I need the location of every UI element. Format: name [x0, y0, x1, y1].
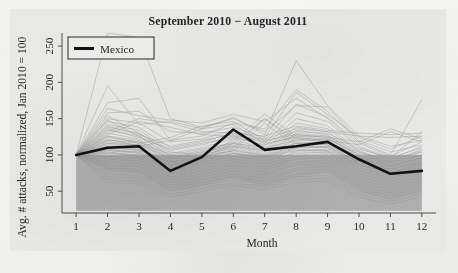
- y-axis-title: Avg. # attacks, normalized, Jan 2010 = 1…: [16, 36, 29, 237]
- chart-title: September 2010 − August 2011: [149, 14, 308, 28]
- chart-canvas: September 2010 − August 2011 Avg. # atta…: [10, 9, 446, 251]
- x-tick-label: 4: [168, 220, 174, 232]
- y-tick-label: 250: [43, 37, 55, 54]
- y-tick-label: 200: [43, 74, 55, 91]
- legend-label-mexico: Mexico: [100, 43, 135, 55]
- y-tick-label: 50: [43, 185, 55, 197]
- x-tick-label: 6: [230, 220, 236, 232]
- y-tick-label: 100: [43, 146, 55, 163]
- chart-figure: September 2010 − August 2011 Avg. # atta…: [10, 9, 446, 251]
- x-axis-title: Month: [247, 237, 278, 250]
- x-tick-label: 9: [325, 220, 331, 232]
- x-tick-label: 3: [136, 220, 142, 232]
- x-tick-label: 11: [385, 220, 396, 232]
- chart-legend[interactable]: Mexico: [68, 37, 154, 59]
- x-tick-label: 8: [293, 220, 299, 232]
- x-tick-label: 10: [353, 220, 365, 232]
- x-tick-label: 2: [105, 220, 111, 232]
- x-tick-label: 7: [262, 220, 268, 232]
- x-tick-label: 12: [416, 220, 427, 232]
- y-tick-label: 150: [43, 110, 55, 127]
- x-tick-label: 1: [73, 220, 79, 232]
- x-tick-label: 5: [199, 220, 205, 232]
